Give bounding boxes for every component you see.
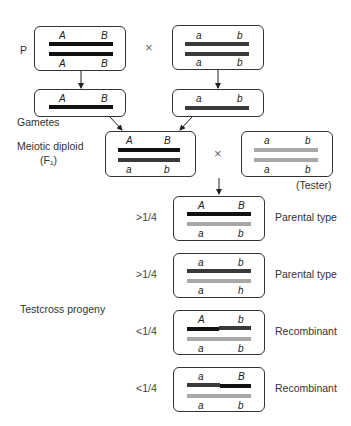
label-testcross-progeny: Testcross progeny: [20, 303, 105, 315]
label-f1: (F₁): [40, 154, 57, 166]
allele: b: [238, 257, 244, 268]
allele: b: [237, 30, 243, 41]
chromosome-AB: [118, 148, 180, 152]
allele: a: [196, 57, 202, 68]
cross-symbol: ×: [214, 146, 222, 161]
parent-right-box: a b a b: [172, 25, 264, 70]
chromosome-ab: [187, 269, 251, 273]
chromosome-ab-tester: [254, 148, 318, 152]
allele: B: [238, 200, 245, 211]
allele: a: [196, 93, 202, 104]
chromosome-segment-B: [220, 384, 251, 388]
progeny-type: Parental type: [275, 211, 337, 223]
progeny-box: A B a b: [173, 196, 265, 241]
allele: A: [59, 58, 66, 69]
progeny-box: A b a b: [173, 310, 265, 355]
gamete-left-box: A B: [34, 89, 126, 117]
allele: A: [59, 93, 66, 104]
chromosome-ab: [185, 42, 249, 46]
chromosome-ab-tester: [187, 222, 251, 226]
progeny-fraction: <1/4: [136, 382, 157, 394]
progeny-box: a B a b: [173, 367, 265, 412]
allele: a: [198, 371, 204, 382]
allele: b: [238, 343, 244, 354]
tester-box: a b a b: [241, 131, 333, 177]
chromosome-segment-b: [219, 326, 251, 330]
arrow-gamete-left-to-f1: [110, 117, 122, 130]
chromosome-ab-tester: [187, 337, 251, 341]
allele: A: [59, 30, 66, 41]
arrow-gamete-right-to-f1: [180, 117, 192, 130]
progeny-fraction: <1/4: [136, 325, 157, 337]
allele: b: [238, 400, 244, 411]
label-meiotic-diploid: Meiotic diploid: [17, 140, 84, 152]
allele: b: [237, 57, 243, 68]
progeny-type: Recombinant: [275, 382, 337, 394]
label-tester: (Tester): [296, 179, 332, 191]
parent-left-box: A B A B: [34, 26, 126, 71]
progeny-type: Recombinant: [275, 325, 337, 337]
allele: B: [101, 58, 108, 69]
chromosome-AB: [187, 212, 251, 216]
cross-symbol: ×: [145, 40, 153, 55]
allele: A: [198, 200, 205, 211]
label-gametes: Gametes: [17, 116, 60, 128]
allele: b: [237, 93, 243, 104]
allele: b: [305, 164, 311, 175]
progeny-type: Parental type: [275, 268, 337, 280]
gamete-right-box: a b: [172, 89, 264, 117]
allele: B: [164, 135, 171, 146]
chromosome-ab-tester: [187, 279, 251, 283]
allele: B: [101, 30, 108, 41]
chromosome-segment-A: [187, 327, 219, 331]
allele: B: [101, 93, 108, 104]
allele: h: [238, 285, 244, 296]
chromosome-ab-tester: [187, 394, 251, 398]
allele: b: [164, 164, 170, 175]
allele: a: [198, 343, 204, 354]
chromosome-ab: [118, 158, 180, 162]
allele: a: [198, 257, 204, 268]
allele: a: [126, 164, 132, 175]
allele: a: [198, 285, 204, 296]
progeny-fraction: >1/4: [136, 211, 157, 223]
chromosome-ab-tester: [254, 158, 318, 162]
f1-box: A B a b: [105, 131, 196, 177]
chromosome-segment-a: [187, 383, 220, 387]
progeny-fraction: >1/4: [136, 268, 157, 280]
chromosome-ab: [185, 106, 249, 110]
allele: A: [198, 314, 205, 325]
chromosome-AB: [49, 42, 113, 46]
chromosome-ab: [185, 52, 249, 56]
progeny-box: a b a h: [173, 253, 265, 298]
chromosome-AB: [49, 52, 113, 56]
allele: a: [198, 400, 204, 411]
allele: a: [264, 135, 270, 146]
label-p: P: [20, 44, 27, 56]
allele: a: [198, 228, 204, 239]
allele: b: [238, 228, 244, 239]
chromosome-AB: [49, 105, 113, 109]
allele: B: [238, 371, 245, 382]
allele: a: [196, 30, 202, 41]
allele: A: [126, 135, 133, 146]
allele: b: [238, 314, 244, 325]
allele: a: [264, 164, 270, 175]
allele: b: [305, 135, 311, 146]
